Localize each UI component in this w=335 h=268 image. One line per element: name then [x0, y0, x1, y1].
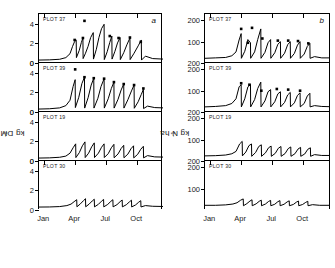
x-axis-tick: [303, 161, 304, 165]
y-axis-tick: [201, 167, 205, 168]
x-axis-tick-label: Oct: [130, 214, 142, 223]
y-axis-tick: [35, 141, 39, 142]
x-axis-tick-label: Apr: [68, 214, 80, 223]
y-axis-tick-label: 0: [30, 157, 34, 166]
y-axis-tick: [35, 24, 39, 25]
data-point-marker: [240, 28, 243, 31]
y-axis-tick: [201, 118, 205, 119]
figure-root: kg DM ha-1 PLOT 37a024PLOT 390240PLOT 19…: [0, 0, 335, 268]
data-point-marker: [240, 82, 243, 85]
subpanel-label: PLOT 39: [43, 65, 65, 71]
subpanel-plot-19: PLOT 190240: [38, 111, 162, 160]
x-axis-tick: [241, 161, 242, 165]
data-point-marker: [73, 39, 76, 42]
y-axis-tick-label: 200: [187, 108, 200, 117]
y-axis-tick: [201, 20, 205, 21]
data-point-marker: [307, 42, 310, 45]
data-point-marker: [133, 84, 136, 87]
y-axis-tick-label: 100: [187, 37, 200, 46]
x-axis-tick: [106, 14, 107, 18]
panel-letter-b: b: [320, 16, 324, 25]
y-axis-tick: [201, 63, 205, 64]
data-point-marker: [261, 37, 264, 40]
y-axis-tick-label: 0: [30, 59, 34, 68]
y-axis-tick: [201, 42, 205, 43]
subpanel-plot-37: PLOT 37b100200: [204, 13, 330, 62]
panel-letter-a: a: [152, 16, 156, 25]
data-point-marker: [92, 77, 95, 80]
x-axis-tick: [44, 14, 45, 18]
data-point-marker: [287, 88, 290, 91]
data-point-marker: [247, 41, 250, 44]
x-axis-tick-label: Oct: [296, 214, 308, 223]
x-axis-tick: [75, 14, 76, 18]
x-axis-tick: [303, 14, 304, 18]
x-axis-tick-label: Jan: [203, 214, 215, 223]
y-axis-tick: [201, 69, 205, 70]
y-axis-title-b: kg N ha-1: [168, 0, 182, 268]
data-point-marker: [83, 20, 86, 23]
y-axis-tick: [201, 112, 205, 113]
data-point-marker: [129, 36, 132, 39]
data-point-marker: [276, 88, 279, 91]
subpanel-label: PLOT 30: [43, 163, 65, 169]
x-axis-tick: [106, 161, 107, 165]
y-axis-tick-label: 200: [187, 59, 200, 68]
x-axis-tick-label: Jan: [37, 214, 49, 223]
x-axis-tick: [137, 161, 138, 165]
subpanel-plot-30: PLOT 30100200200: [204, 160, 330, 209]
data-point-marker: [122, 83, 125, 86]
subpanel-plot-30: PLOT 300240: [38, 160, 162, 209]
y-axis-title-b-text: kg N ha: [161, 130, 190, 139]
y-axis-tick-label: 0: [30, 206, 34, 215]
x-axis-tick: [272, 14, 273, 18]
x-axis-tick: [75, 161, 76, 165]
y-axis-tick: [35, 43, 39, 44]
y-axis-tick-label: 2: [30, 137, 34, 146]
data-point-marker: [74, 68, 77, 71]
y-axis-tick-label: 2: [30, 88, 34, 97]
data-point-marker: [299, 89, 302, 92]
data-point-marker: [297, 40, 300, 43]
y-axis-tick: [35, 190, 39, 191]
y-axis-tick-label: 200: [187, 16, 200, 25]
subpanel-label: PLOT 37: [209, 16, 231, 22]
y-axis-tick-label: 4: [30, 19, 34, 28]
subpanel-plot-19: PLOT 19100200200: [204, 111, 330, 160]
subpanel-plot-39: PLOT 39100200200: [204, 62, 330, 111]
x-axis-tick: [44, 161, 45, 165]
data-point-marker: [103, 77, 106, 80]
y-axis-tick-label: 4: [30, 166, 34, 175]
y-axis-tick: [35, 92, 39, 93]
data-point-marker: [113, 81, 116, 84]
x-axis-tick: [210, 161, 211, 165]
data-point-marker: [139, 41, 142, 44]
data-point-marker: [248, 83, 251, 86]
y-axis-tick: [35, 171, 39, 172]
subpanel-label: PLOT 30: [209, 163, 231, 169]
y-axis-tick-label: 2: [30, 39, 34, 48]
subpanel-label: PLOT 37: [43, 16, 65, 22]
chart-panel-b: kg N ha-1 PLOT 37b100200PLOT 39100200200…: [168, 0, 335, 268]
y-axis-tick-label: 0: [30, 108, 34, 117]
y-axis-title-a-text: kg DM ha: [0, 130, 25, 139]
data-point-marker: [277, 39, 280, 42]
data-point-marker: [260, 89, 263, 92]
y-axis-tick: [35, 161, 39, 162]
x-axis-tick-label: Jul: [266, 214, 276, 223]
y-axis-tick: [35, 112, 39, 113]
subpanel-plot-39: PLOT 390240: [38, 62, 162, 111]
data-point-marker: [108, 35, 111, 38]
x-axis-tick: [272, 161, 273, 165]
y-axis-tick: [201, 161, 205, 162]
subpanel-label: PLOT 19: [209, 114, 231, 120]
y-axis-tick: [35, 73, 39, 74]
y-axis-tick-label: 100: [187, 184, 200, 193]
y-axis-tick-label: 100: [187, 135, 200, 144]
data-point-marker: [82, 37, 85, 40]
y-axis-tick-label: 4: [30, 117, 34, 126]
y-axis-tick-label: 2: [30, 186, 34, 195]
y-axis-tick: [35, 63, 39, 64]
x-axis: JanAprJulOct: [38, 209, 162, 231]
y-axis-title-a: kg DM ha-1: [0, 0, 14, 268]
